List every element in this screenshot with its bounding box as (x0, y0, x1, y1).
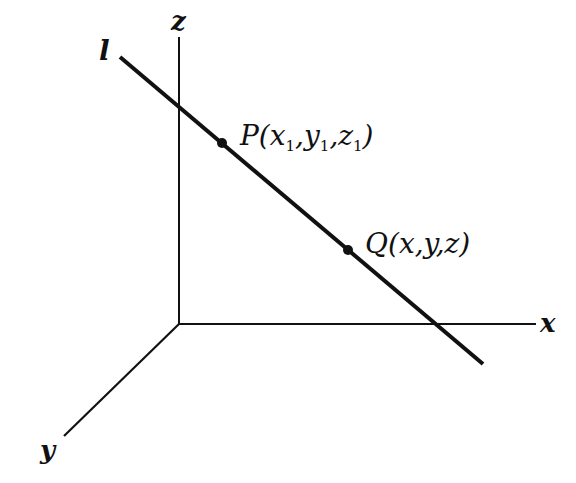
point-p-sub-z: 1 (353, 137, 363, 155)
line-l-label: l (99, 37, 110, 65)
point-p (217, 138, 227, 148)
point-q-label: Q(x,y,z) (365, 230, 470, 258)
point-p-sep-z: ,z (329, 119, 353, 152)
point-p-label-main: P(x (240, 119, 286, 152)
line-l (120, 57, 483, 364)
point-p-sub-y: 1 (320, 137, 330, 155)
diagram-canvas: z x y l P(x1,y1,z1) Q(x,y,z) (0, 0, 576, 483)
point-p-close: ) (363, 119, 374, 152)
y-axis-label: y (40, 437, 55, 463)
point-p-label: P(x1,y1,z1) (240, 122, 374, 154)
z-axis-label: z (171, 8, 186, 34)
point-p-sub-x: 1 (286, 137, 296, 155)
point-q (343, 245, 353, 255)
y-axis (64, 324, 179, 436)
x-axis-label: x (540, 310, 556, 336)
point-p-sep-y: ,y (295, 119, 320, 152)
diagram-svg (0, 0, 576, 483)
